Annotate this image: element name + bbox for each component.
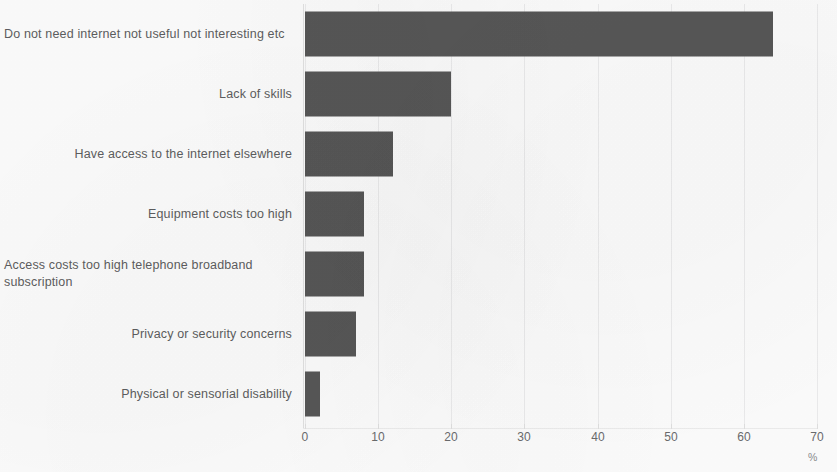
x-axis-tick-label: 40 (578, 430, 618, 444)
bar (305, 192, 364, 237)
tick-mark (305, 424, 306, 429)
table-row: Equipment costs too high (0, 184, 837, 244)
x-axis-tick-label: 0 (285, 430, 325, 444)
category-label: Physical or sensorial disability (4, 386, 292, 403)
x-axis-tick-label: 50 (651, 430, 691, 444)
category-label: Lack of skills (4, 86, 292, 103)
bar-chart: Do not need internet not useful not inte… (0, 0, 837, 472)
tick-mark (817, 424, 818, 429)
x-axis-tick-label: 10 (358, 430, 398, 444)
tick-mark (744, 424, 745, 429)
category-label: Equipment costs too high (4, 206, 292, 223)
x-axis-tick-label: 30 (504, 430, 544, 444)
category-label: Do not need internet not useful not inte… (4, 26, 292, 43)
tick-mark (598, 424, 599, 429)
x-axis-unit-label: % (808, 451, 817, 463)
category-label: Privacy or security concerns (4, 326, 292, 343)
bar (305, 312, 356, 357)
table-row: Physical or sensorial disability (0, 364, 837, 424)
bar (305, 252, 364, 297)
x-axis-tick-label: 70 (797, 430, 837, 444)
x-axis-tick-label: 60 (724, 430, 764, 444)
table-row: Access costs too high telephone broadban… (0, 244, 837, 304)
bar (305, 372, 320, 417)
tick-mark (524, 424, 525, 429)
table-row: Lack of skills (0, 64, 837, 124)
table-row: Have access to the internet elsewhere (0, 124, 837, 184)
tick-mark (378, 424, 379, 429)
x-axis-tick-label: 20 (431, 430, 471, 444)
y-axis-line (303, 4, 304, 428)
x-axis-line (303, 428, 817, 429)
category-label: Have access to the internet elsewhere (4, 146, 292, 163)
bar (305, 12, 773, 57)
bar (305, 132, 393, 177)
tick-mark (671, 424, 672, 429)
table-row: Privacy or security concerns (0, 304, 837, 364)
category-label: Access costs too high telephone broadban… (4, 257, 292, 291)
bar (305, 72, 451, 117)
table-row: Do not need internet not useful not inte… (0, 4, 837, 64)
tick-mark (451, 424, 452, 429)
